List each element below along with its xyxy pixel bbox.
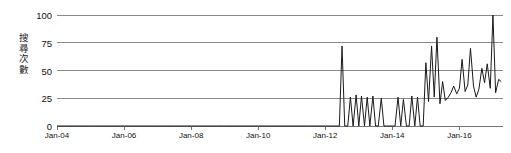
- x-axis-tick-marks: [57, 126, 459, 130]
- gridlines: [57, 15, 503, 126]
- search-volume-chart: 搜尋次數 0255075100 Jan-04Jan-06Jan-08Jan-10…: [0, 0, 511, 153]
- x-axis-tick-label: Jan-12: [313, 131, 337, 140]
- x-axis-tick-label: Jan-08: [179, 131, 203, 140]
- x-axis-tick-label: Jan-16: [447, 131, 471, 140]
- x-axis-tick-label: Jan-06: [112, 131, 136, 140]
- x-axis-tick-label: Jan-10: [246, 131, 270, 140]
- x-axis-tick-label: Jan-14: [380, 131, 404, 140]
- x-axis-tick-label: Jan-04: [45, 131, 69, 140]
- x-axis-tick-labels: Jan-04Jan-06Jan-08Jan-10Jan-12Jan-14Jan-…: [0, 131, 511, 145]
